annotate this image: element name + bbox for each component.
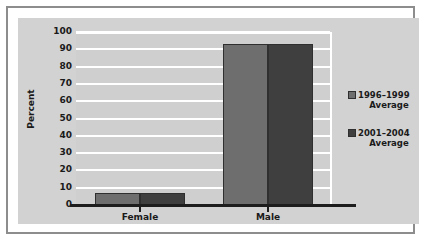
y-tick-label: 60 xyxy=(32,96,72,105)
figure-border: 1009080706050403020100 Percent FemaleMal… xyxy=(6,6,415,234)
legend-swatch-icon xyxy=(348,129,356,137)
y-tick-label: 70 xyxy=(32,79,72,88)
plot-area xyxy=(76,32,332,205)
bar[interactable] xyxy=(223,44,268,205)
y-tick-label: 100 xyxy=(32,27,72,36)
y-tick-label: 40 xyxy=(32,131,72,140)
chart-canvas: 1009080706050403020100 Percent FemaleMal… xyxy=(18,18,419,224)
legend-label: 2001–2004 xyxy=(358,128,410,138)
chart-legend: 1996–1999Average2001–2004Average xyxy=(348,90,422,166)
chart-figure: 1009080706050403020100 Percent FemaleMal… xyxy=(0,0,423,241)
x-tick-label: Female xyxy=(100,212,180,222)
x-axis-line xyxy=(70,204,356,207)
legend-row: 2001–2004 xyxy=(348,128,422,138)
legend-row: 1996–1999 xyxy=(348,90,422,100)
y-axis-title: Percent xyxy=(26,89,36,128)
gridline xyxy=(76,31,330,33)
y-tick-label: 90 xyxy=(32,44,72,53)
bar-group xyxy=(95,34,185,205)
x-tick-label: Male xyxy=(228,212,308,222)
legend-swatch-icon xyxy=(348,91,356,99)
y-tick-label: 30 xyxy=(32,148,72,157)
y-tick-label: 80 xyxy=(32,62,72,71)
y-tick-label: 20 xyxy=(32,165,72,174)
y-tick-label: 50 xyxy=(32,114,72,123)
legend-label-line2: Average xyxy=(348,138,422,148)
legend-entry[interactable]: 1996–1999Average xyxy=(348,90,422,110)
bar[interactable] xyxy=(268,44,313,205)
y-tick-label: 0 xyxy=(32,200,72,209)
legend-entry[interactable]: 2001–2004Average xyxy=(348,128,422,148)
y-tick-label: 10 xyxy=(32,183,72,192)
legend-label: 1996–1999 xyxy=(358,90,410,100)
bars-layer xyxy=(76,34,330,205)
legend-label-line2: Average xyxy=(348,100,422,110)
bar-group xyxy=(223,34,313,205)
